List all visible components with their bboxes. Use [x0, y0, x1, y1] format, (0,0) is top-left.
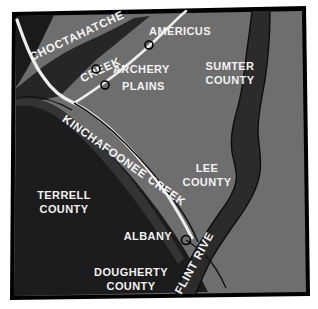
county-label-terrell-line2: COUNTY: [40, 203, 89, 215]
city-label-plains: PLAINS: [122, 80, 165, 92]
county-label-sumter-line2: COUNTY: [206, 74, 255, 86]
county-label-lee-line2: COUNTY: [183, 176, 232, 188]
county-label-dougherty-line2: COUNTY: [107, 280, 156, 292]
county-label-sumter: SUMTER: [206, 60, 255, 72]
city-label-albany: ALBANY: [124, 230, 172, 242]
map-figure: CHOCTAHATCHEE CREEK KINCHAFOONEE CREEK F…: [0, 0, 318, 309]
county-label-terrell: TERRELL: [37, 189, 91, 201]
county-label-dougherty: DOUGHERTY: [94, 266, 168, 278]
county-label-lee: LEE: [196, 162, 219, 174]
city-label-archery: ARCHERY: [113, 63, 170, 75]
map-canvas: CHOCTAHATCHEE CREEK KINCHAFOONEE CREEK F…: [0, 0, 318, 309]
city-label-americus: AMERICUS: [149, 25, 211, 37]
